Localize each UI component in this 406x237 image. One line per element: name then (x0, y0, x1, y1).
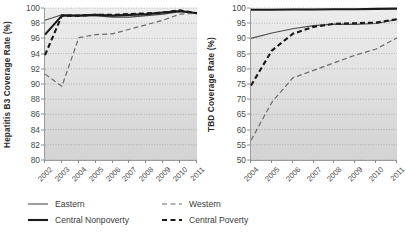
line-chart-svg-right (251, 8, 397, 160)
y-tick-label: 84 (31, 125, 40, 135)
x-tick-mark (354, 160, 355, 163)
legend-line-swatch (28, 215, 48, 225)
x-tick-label: 2006 (284, 165, 302, 183)
y-axis-label-right-text: TBD Coverage Rate (%) (207, 37, 216, 132)
y-tick-label: 96 (31, 33, 40, 43)
x-tick-mark (179, 160, 180, 163)
legend-line-swatch (28, 199, 48, 209)
x-tick-label: 2009 (346, 165, 364, 183)
y-tick-label: 94 (31, 49, 40, 59)
y-tick-label: 90 (237, 33, 246, 43)
y-tick-label: 65 (237, 109, 246, 119)
x-tick-mark (313, 160, 314, 163)
chart-panels: Hepatitis B3 Coverage Rate (%) 808284868… (0, 0, 403, 192)
x-tick-label: 2004 (70, 165, 88, 183)
legend-label: Western (189, 199, 221, 209)
x-tick-label: 2010 (367, 165, 385, 183)
x-tick-label: 2009 (154, 165, 172, 183)
series-line-central-poverty (251, 19, 397, 85)
y-tick-label: 100 (232, 3, 246, 13)
plot-background-left (44, 8, 197, 160)
y-tick-label: 85 (237, 49, 246, 59)
x-tick-mark (250, 160, 251, 163)
y-tick-label: 82 (31, 140, 40, 150)
y-tick-label: 98 (31, 18, 40, 28)
x-tick-label: 2003 (53, 165, 71, 183)
y-tick-label: 90 (31, 79, 40, 89)
legend-line-swatch (162, 215, 182, 225)
x-axis-line-right (250, 160, 396, 161)
series-line-eastern (251, 20, 397, 39)
x-tick-label: 2006 (104, 165, 122, 183)
x-tick-label: 2007 (305, 165, 323, 183)
chart-panel-tbd: TBD Coverage Rate (%) 505560657075808590… (204, 0, 403, 192)
y-tick-label: 55 (237, 140, 246, 150)
x-axis-ticks-left: 2002200320042005200620072008200920102011 (44, 160, 196, 194)
legend-item-central-nonpoverty[interactable]: Central Nonpoverty (28, 213, 146, 226)
y-tick-label: 80 (31, 155, 40, 165)
x-tick-mark (292, 160, 293, 163)
y-axis-ticks-left: 80828486889092949698100 (14, 8, 44, 160)
x-tick-mark (333, 160, 334, 163)
y-tick-label: 75 (237, 79, 246, 89)
x-tick-label: 2005 (263, 165, 281, 183)
y-tick-label: 60 (237, 125, 246, 135)
chart-panel-hepatitis-b3: Hepatitis B3 Coverage Rate (%) 808284868… (0, 0, 204, 192)
line-chart-svg-left (45, 8, 197, 160)
x-tick-label: 2005 (87, 165, 105, 183)
legend-label: Central Nonpoverty (55, 215, 129, 225)
y-tick-label: 88 (31, 94, 40, 104)
x-tick-label: 2011 (388, 165, 406, 183)
y-axis-ticks-right: 50556065707580859095100 (220, 8, 250, 160)
x-tick-mark (44, 160, 45, 163)
legend-line-swatch (162, 199, 182, 209)
y-tick-label: 100 (26, 3, 40, 13)
x-tick-label: 2008 (137, 165, 155, 183)
series-line-central-nonpoverty (251, 9, 397, 10)
y-tick-label: 86 (31, 109, 40, 119)
x-tick-label: 2010 (171, 165, 189, 183)
series-line-western (251, 38, 397, 140)
plot-area-left (44, 8, 196, 160)
x-axis-line-left (44, 160, 196, 161)
x-tick-mark (145, 160, 146, 163)
y-tick-label: 80 (237, 64, 246, 74)
series-line-western (45, 13, 197, 86)
legend-item-eastern[interactable]: Eastern (28, 197, 146, 210)
x-tick-mark (112, 160, 113, 163)
x-tick-label: 2002 (36, 165, 54, 183)
x-tick-mark (196, 160, 197, 163)
x-tick-mark (61, 160, 62, 163)
legend-label: Central Poverty (189, 215, 248, 225)
y-tick-label: 95 (237, 18, 246, 28)
legend-item-western[interactable]: Western (162, 197, 248, 210)
x-tick-mark (78, 160, 79, 163)
x-tick-label: 2007 (120, 165, 138, 183)
x-tick-mark (375, 160, 376, 163)
plot-area-right (250, 8, 396, 160)
chart-legend: EasternWesternCentral NonpovertyCentral … (0, 193, 403, 237)
x-tick-mark (95, 160, 96, 163)
legend-entries: EasternWesternCentral NonpovertyCentral … (28, 197, 248, 226)
x-tick-label: 2008 (325, 165, 343, 183)
y-axis-label-left: Hepatitis B3 Coverage Rate (%) (0, 0, 14, 168)
legend-item-central-poverty[interactable]: Central Poverty (162, 213, 248, 226)
x-tick-mark (128, 160, 129, 163)
y-tick-label: 92 (31, 64, 40, 74)
x-tick-label: 2004 (242, 165, 260, 183)
x-tick-mark (271, 160, 272, 163)
x-tick-mark (396, 160, 397, 163)
x-axis-ticks-right: 20042005200620072008200920102011 (250, 160, 396, 194)
y-tick-label: 50 (237, 155, 246, 165)
y-axis-label-right: TBD Coverage Rate (%) (204, 0, 218, 168)
plot-background-right (250, 8, 397, 160)
legend-label: Eastern (55, 199, 85, 209)
y-tick-label: 70 (237, 94, 246, 104)
y-axis-label-left-text: Hepatitis B3 Coverage Rate (%) (3, 21, 12, 148)
x-tick-mark (162, 160, 163, 163)
